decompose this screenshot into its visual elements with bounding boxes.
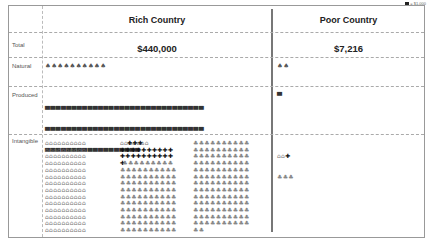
row-label-intangible: Intangible [12,138,38,144]
column-header-rich: Rich Country [43,15,271,25]
row-divider [9,32,424,33]
intangible-rich-person-icons-3: ♣♣♣♣♣♣♣♣♣♣ ♣♣♣♣♣♣♣♣♣♣ ♣♣♣♣♣♣♣♣♣♣ ♣♣♣♣♣♣♣… [193,140,250,234]
cross-icon: ✚ [285,152,290,159]
wealth-comparison-table: Rich Country Poor Country Total Natural … [8,5,425,238]
person-icon-row: ♣♣♣ [277,174,294,181]
intangible-poor-icons: ⌂⌂✚ ♣♣♣ [277,140,294,194]
natural-rich-tree-icons: ♠♠♠♠♠♠♠♠♠♠ [45,63,106,70]
total-poor: $7,216 [273,43,424,54]
row-divider [9,86,424,87]
intangible-rich-person-icons: ♣♣♣♣♣♣♣♣♣ ♣♣♣♣♣♣♣♣♣♣ ♣♣♣♣♣♣♣♣♣♣ ♣♣♣♣♣♣♣♣… [120,140,177,234]
intangible-rich-building-icons: ⌂⌂⌂⌂⌂⌂⌂⌂⌂⌂ ⌂⌂⌂⌂⌂⌂⌂⌂⌂⌂ ⌂⌂⌂⌂⌂⌂⌂⌂⌂⌂ ⌂⌂⌂⌂⌂⌂⌂… [45,140,86,234]
column-header-poor: Poor Country [273,15,424,25]
row-label-produced: Produced [12,92,38,98]
car-icon-row: ▀▀▀▀▀▀▀▀▀▀▀▀▀▀▀▀▀▀▀▀▀▀▀▀▀▀▀▀▀▀ [45,107,204,114]
row-label-natural: Natural [12,63,31,69]
row-divider [9,57,424,58]
label-column-divider [42,6,43,237]
total-rich: $440,000 [43,43,271,54]
building-icon: ⌂⌂ [277,152,285,159]
produced-poor-car-icon: ▀ [277,93,282,100]
row-label-total: Total [12,42,25,48]
natural-poor-tree-icons: ♠♠ [277,63,289,70]
car-icon-row: ▀▀▀▀▀▀▀▀▀▀▀▀▀▀▀▀▀▀▀▀▀▀▀▀▀▀▀▀▀▀ [45,128,204,135]
